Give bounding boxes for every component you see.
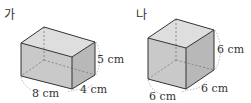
cube-b-height-label: 6 cm [217,43,245,56]
figure-b-title: 나 [136,8,147,22]
figure-a-title: 가 [4,8,15,22]
prism-a-height-label: 5 cm [97,53,125,66]
figure-canvas: 가 8 cm 4 cm 5 cm 나 [0,0,251,103]
prism-a: 가 8 cm 4 cm 5 cm [4,8,125,100]
cube-b-width-label: 6 cm [201,82,229,95]
prism-a-width-label: 4 cm [80,83,108,96]
prism-a-length-label: 8 cm [32,87,60,100]
cube-b-length-label: 6 cm [149,90,177,103]
cube-b: 나 6 cm 6 cm 6 cm [136,8,245,103]
